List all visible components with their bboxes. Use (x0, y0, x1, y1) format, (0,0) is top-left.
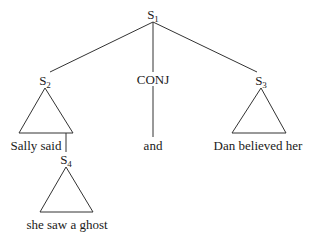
node-s3-sub: 3 (262, 80, 267, 90)
syntax-tree-diagram: S1 S2 CONJ S3 S4 Sally said and Dan beli… (0, 0, 315, 241)
leaf-s2-text: Sally said (11, 139, 62, 152)
edge-s1-s2 (50, 22, 153, 72)
leaf-conj-text: and (144, 139, 163, 152)
node-s4-sub: 4 (67, 159, 72, 169)
leaf-s3-text: Dan believed her (214, 139, 303, 152)
node-s1-sub: 1 (154, 14, 159, 24)
leaf-s4-text: she saw a ghost (26, 218, 107, 231)
tree-edges (0, 0, 315, 241)
node-s2: S2 (39, 74, 51, 87)
node-s4: S4 (60, 153, 72, 166)
node-s3: S3 (255, 74, 267, 87)
edge-s1-s3 (153, 22, 257, 72)
triangle-s3 (232, 88, 286, 133)
node-s1: S1 (147, 8, 159, 21)
triangle-s4 (40, 167, 93, 212)
triangle-s2 (19, 88, 73, 133)
node-s2-sub: 2 (46, 80, 51, 90)
node-conj: CONJ (137, 73, 170, 86)
